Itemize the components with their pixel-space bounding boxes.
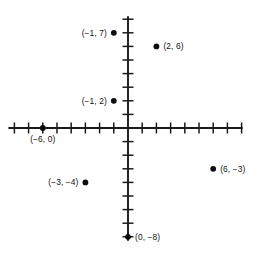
data-point-dot <box>125 234 131 240</box>
data-point-label: (−1, 7) <box>82 29 107 37</box>
data-point-dot <box>40 125 46 131</box>
coordinate-plane-svg <box>0 0 262 260</box>
data-point-label: (6, −3) <box>220 165 245 173</box>
data-point-label: (−1, 2) <box>82 97 107 105</box>
data-point-dot <box>111 98 117 104</box>
data-point-dot <box>210 166 216 172</box>
data-point-label: (−6, 0) <box>30 135 55 143</box>
data-point-label: (2, 6) <box>163 42 183 50</box>
data-point-dot <box>111 30 117 36</box>
data-point-label: (−3, −4) <box>48 178 78 186</box>
data-point-dot <box>154 44 160 50</box>
data-point-label: (0, −8) <box>135 233 160 241</box>
data-point-dot <box>83 180 89 186</box>
coordinate-plane-figure: (−1, 7)(2, 6)(−1, 2)(−6, 0)(−3, −4)(6, −… <box>0 0 262 260</box>
